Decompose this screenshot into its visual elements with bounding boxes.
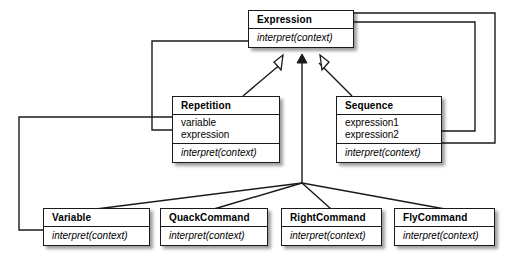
generalization-variable-to-trunk <box>96 183 302 209</box>
class-box-variable[interactable]: Variable interpret(context) <box>43 208 150 246</box>
class-name-repetition: Repetition <box>173 97 279 114</box>
generalization-quackcommand-to-trunk <box>214 183 302 209</box>
operation: interpret(context) <box>403 230 494 242</box>
solid-triangle-arrowhead-leaves <box>297 54 307 63</box>
class-name-flycommand: FlyCommand <box>395 209 494 226</box>
class-name-sequence: Sequence <box>337 97 441 114</box>
operation: interpret(context) <box>169 230 267 242</box>
attribute: expression1 <box>345 117 441 129</box>
class-operations-variable: interpret(context) <box>44 227 149 245</box>
class-operations-rightcommand: interpret(context) <box>282 227 381 245</box>
class-name-variable: Variable <box>44 209 149 226</box>
attribute: expression <box>181 129 279 141</box>
class-name-quackcommand: QuackCommand <box>161 209 267 226</box>
class-attributes-repetition: variable expression <box>173 115 279 143</box>
attribute: expression2 <box>345 129 441 141</box>
class-name-rightcommand: RightCommand <box>282 209 381 226</box>
uml-diagram-canvas: Expression interpret(context) Repetition… <box>0 0 514 272</box>
operation: interpret(context) <box>257 32 353 44</box>
generalization-repetition-to-expression <box>243 63 282 96</box>
operation: interpret(context) <box>345 147 441 159</box>
class-box-flycommand[interactable]: FlyCommand interpret(context) <box>394 208 495 246</box>
class-box-rightcommand[interactable]: RightCommand interpret(context) <box>281 208 382 246</box>
class-name-expression: Expression <box>249 11 353 28</box>
operation: interpret(context) <box>52 230 149 242</box>
class-operations-repetition: interpret(context) <box>173 144 279 162</box>
class-operations-sequence: interpret(context) <box>337 144 441 162</box>
attribute: variable <box>181 117 279 129</box>
hollow-triangle-arrowhead-sequence <box>320 55 329 70</box>
generalization-flycommand-to-trunk <box>302 183 445 209</box>
class-box-expression[interactable]: Expression interpret(context) <box>248 10 354 48</box>
class-operations-quackcommand: interpret(context) <box>161 227 267 245</box>
class-operations-expression: interpret(context) <box>249 29 353 47</box>
operation: interpret(context) <box>290 230 381 242</box>
class-box-repetition[interactable]: Repetition variable expression interpret… <box>172 96 280 163</box>
class-box-quackcommand[interactable]: QuackCommand interpret(context) <box>160 208 268 246</box>
class-attributes-sequence: expression1 expression2 <box>337 115 441 143</box>
class-operations-flycommand: interpret(context) <box>395 227 494 245</box>
class-box-sequence[interactable]: Sequence expression1 expression2 interpr… <box>336 96 442 163</box>
operation: interpret(context) <box>181 147 279 159</box>
